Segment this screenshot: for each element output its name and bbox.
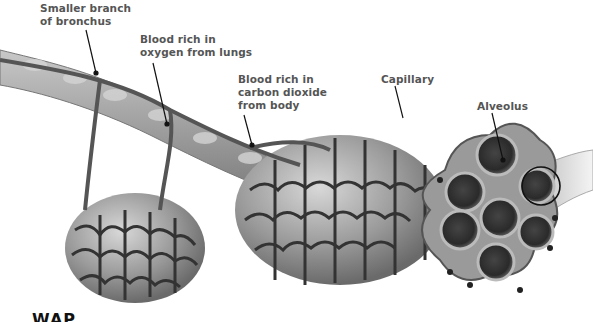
alveolus-cluster <box>422 124 558 293</box>
alveoli-illustration <box>0 0 593 322</box>
label-alveolus: Alveolus <box>477 100 528 113</box>
alveoli-diagram: Smaller branch of bronchus Blood rich in… <box>0 0 593 322</box>
label-oxygen-blood: Blood rich in oxygen from lungs <box>140 33 252 59</box>
label-bronchus: Smaller branch of bronchus <box>40 2 131 28</box>
cutoff-heading: WAP <box>32 309 76 322</box>
label-co2-blood: Blood rich in carbon dioxide from body <box>238 73 327 112</box>
label-capillary: Capillary <box>381 73 434 86</box>
middle-alveolar-cluster <box>235 135 445 285</box>
